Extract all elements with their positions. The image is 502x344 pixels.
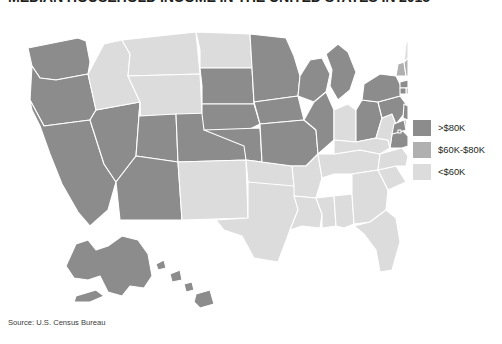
legend-label-low: <$60K (438, 166, 465, 177)
state-MN (250, 34, 300, 102)
state-NJ (403, 104, 408, 120)
state-HI-4 (194, 290, 214, 308)
state-MA (400, 80, 408, 88)
state-CT (400, 88, 406, 94)
state-IN (334, 104, 356, 142)
legend-item-high: >$80K (413, 119, 499, 136)
legend-item-low: <$60K (413, 163, 499, 180)
legend-swatch-mid (413, 142, 431, 158)
state-HI-2 (170, 270, 182, 282)
infographic-page: MEDIAN HOUSEHOLD INCOME IN THE UNITED ST… (0, 0, 502, 344)
states-layer (28, 32, 408, 308)
state-AL (334, 194, 354, 228)
state-HI-3 (184, 282, 194, 292)
us-choropleth-map (4, 14, 408, 308)
state-AK (66, 236, 152, 296)
map-svg (4, 14, 408, 308)
legend-label-mid: $60K-$80K (438, 144, 485, 155)
legend-item-mid: $60K-$80K (413, 141, 499, 158)
state-DC (398, 130, 401, 133)
legend-label-high: >$80K (438, 122, 465, 133)
legend: >$80K $60K-$80K <$60K (413, 119, 499, 185)
state-AK-aleutians (74, 290, 104, 302)
state-SD (200, 68, 254, 104)
page-title: MEDIAN HOUSEHOLD INCOME IN THE UNITED ST… (8, 0, 496, 7)
legend-swatch-low (413, 164, 431, 180)
state-ME (404, 38, 408, 62)
state-ND (196, 32, 252, 68)
state-MI (326, 44, 356, 100)
source-caption: Source: U.S. Census Bureau (8, 318, 106, 328)
state-MO (260, 120, 318, 166)
state-MT (122, 32, 200, 76)
legend-swatch-high (413, 120, 431, 136)
state-NM (178, 160, 248, 220)
state-HI-1 (156, 260, 166, 270)
